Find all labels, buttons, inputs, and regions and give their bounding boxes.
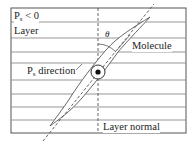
theta-label: θ bbox=[105, 30, 109, 39]
ps-condition-label: Ps < 0 bbox=[14, 11, 39, 23]
layer-label: Layer bbox=[14, 26, 38, 37]
layer-normal-label: Layer normal bbox=[103, 122, 160, 133]
ps-direction-label: Ps direction bbox=[27, 66, 76, 78]
molecule-label: Molecule bbox=[132, 41, 172, 52]
ps-dot-icon bbox=[95, 69, 100, 74]
